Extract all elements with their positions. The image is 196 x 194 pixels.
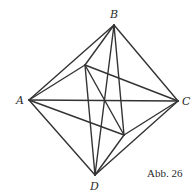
label-b: B [109, 8, 118, 21]
edge-a-q [29, 100, 124, 135]
label-d: D [89, 180, 99, 193]
edge-c-d [95, 101, 178, 175]
edges [29, 25, 178, 175]
edge-a-p [29, 65, 85, 100]
edge-d-a [29, 100, 95, 175]
edge-b-c [114, 25, 178, 101]
figure-caption: Abb. 26 [147, 167, 183, 179]
label-a: A [15, 94, 24, 107]
edge-a-c [29, 100, 178, 101]
geometry-figure: B A C D Abb. 26 [0, 0, 196, 194]
edge-p-c [85, 65, 178, 101]
label-c: C [182, 95, 191, 108]
edge-a-b [29, 25, 114, 100]
edge-q-c [124, 101, 178, 135]
